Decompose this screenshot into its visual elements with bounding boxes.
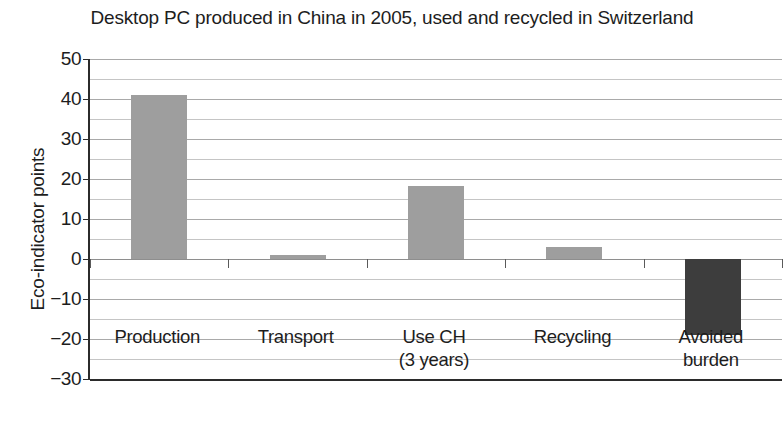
y-tick-mark — [83, 59, 90, 60]
y-tick-label: 30 — [61, 128, 81, 150]
y-tick-label: −30 — [50, 368, 81, 390]
x-axis-label-line: (3 years) — [365, 348, 503, 371]
bar — [408, 186, 464, 259]
y-tick-mark — [83, 99, 90, 100]
chart-figure: Desktop PC produced in China in 2005, us… — [0, 0, 784, 444]
x-axis-label: Recycling — [503, 325, 641, 348]
x-axis-label-line: burden — [642, 348, 780, 371]
y-tick-label: 10 — [61, 208, 81, 230]
x-axis-label: Use CH(3 years) — [365, 325, 503, 371]
x-tick-mark — [367, 259, 368, 268]
y-tick-label: 0 — [71, 248, 81, 270]
gridline — [90, 139, 782, 140]
gridline — [90, 159, 782, 160]
x-axis-label: Avoidedburden — [642, 325, 780, 371]
y-tick-label: 20 — [61, 168, 81, 190]
y-tick-mark — [83, 139, 90, 140]
bar — [546, 247, 602, 259]
y-tick-mark — [83, 259, 90, 260]
zero-line — [90, 259, 782, 260]
bar — [131, 95, 187, 259]
x-axis-label: Production — [88, 325, 226, 348]
y-tick-label: −10 — [50, 288, 81, 310]
x-tick-mark — [505, 259, 506, 268]
gridline — [90, 319, 782, 320]
y-tick-mark — [83, 219, 90, 220]
x-tick-mark — [228, 259, 229, 268]
x-axis-line — [90, 379, 782, 381]
y-tick-mark — [83, 299, 90, 300]
y-tick-mark — [83, 179, 90, 180]
x-axis-label-line: Avoided — [679, 326, 743, 347]
x-axis-label-line: Use CH — [403, 326, 466, 347]
gridline — [90, 279, 782, 280]
gridline — [90, 59, 782, 60]
y-tick-label: −20 — [50, 328, 81, 350]
gridline — [90, 179, 782, 180]
y-axis-title: Eco-indicator points — [27, 99, 49, 359]
gridline — [90, 79, 782, 80]
y-tick-label: 40 — [61, 88, 81, 110]
x-axis-label-line: Production — [114, 326, 199, 347]
x-axis-label: Transport — [226, 325, 364, 348]
x-axis-label-line: Recycling — [534, 326, 612, 347]
y-tick-label: 50 — [61, 48, 81, 70]
gridline — [90, 99, 782, 100]
gridline — [90, 299, 782, 300]
bar — [270, 255, 326, 259]
x-tick-mark — [90, 259, 91, 268]
gridline — [90, 119, 782, 120]
bar — [685, 259, 741, 335]
y-tick-mark — [83, 379, 90, 380]
x-tick-mark — [782, 259, 783, 268]
chart-title: Desktop PC produced in China in 2005, us… — [0, 6, 784, 30]
x-tick-mark — [644, 259, 645, 268]
x-axis-label-line: Transport — [258, 326, 334, 347]
